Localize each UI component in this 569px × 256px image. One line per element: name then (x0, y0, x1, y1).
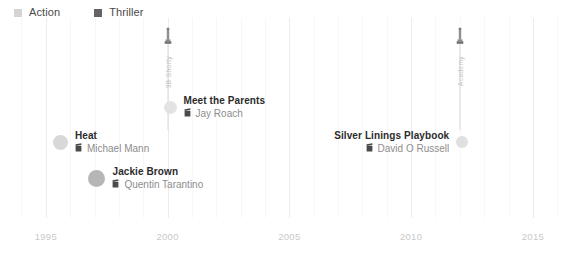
gridline-minor (484, 18, 485, 218)
film-director-row: Jay Roach (184, 108, 243, 120)
film-label-group: Meet the ParentsJay Roach (184, 95, 266, 119)
gridline-major (411, 18, 412, 218)
gridline-minor (21, 18, 22, 218)
film-dot[interactable] (164, 101, 177, 114)
x-axis-tick-label: 1995 (35, 231, 57, 242)
x-axis-tick-label: 2005 (278, 231, 300, 242)
film-data-point[interactable]: Jackie BrownQuentin Tarantino (88, 166, 203, 190)
plot-area: 3B ShortyAcademy HeatMichael MannJackie … (0, 0, 569, 256)
gridline-minor (557, 18, 558, 218)
award-statuette-icon (163, 26, 172, 48)
gridline-minor (70, 18, 71, 218)
film-director-name: Quentin Tarantino (124, 179, 203, 191)
gridline-major (533, 18, 534, 218)
film-data-point[interactable]: Silver Linings PlaybookDavid O Russell (0, 130, 468, 154)
film-data-point[interactable]: Meet the ParentsJay Roach (164, 95, 266, 119)
film-title: Jackie Brown (112, 166, 178, 178)
director-chair-icon (112, 179, 120, 191)
film-title: Meet the Parents (184, 95, 266, 107)
film-director-name: David O Russell (378, 143, 450, 155)
film-director-row: Quentin Tarantino (112, 179, 203, 191)
director-chair-icon (184, 108, 192, 120)
gridline-major (46, 18, 47, 218)
film-director-row: David O Russell (366, 143, 450, 155)
x-axis-tick-label: 2000 (156, 231, 178, 242)
film-dot[interactable] (88, 170, 105, 187)
gridline-minor (387, 18, 388, 218)
gridline-minor (435, 18, 436, 218)
award-label: 3B Shorty (164, 56, 171, 88)
gridline-minor (338, 18, 339, 218)
x-axis-tick-label: 2015 (522, 231, 544, 242)
film-label-group: Silver Linings PlaybookDavid O Russell (334, 130, 449, 154)
director-chair-icon (366, 143, 374, 155)
film-dot[interactable] (456, 136, 468, 148)
award-marker[interactable]: Academy (447, 26, 473, 116)
film-label-group: Jackie BrownQuentin Tarantino (112, 166, 203, 190)
film-title: Silver Linings Playbook (334, 130, 449, 142)
award-label: Academy (456, 56, 463, 86)
gridline-minor (509, 18, 510, 218)
timeline-chart: ActionThriller 3B ShortyAcademy HeatMich… (0, 0, 569, 256)
gridline-minor (314, 18, 315, 218)
award-statuette-icon (455, 26, 464, 48)
gridline-minor (362, 18, 363, 218)
film-director-name: Jay Roach (196, 108, 243, 120)
gridline-minor (265, 18, 266, 218)
x-axis-tick-label: 2010 (400, 231, 422, 242)
gridline-major (289, 18, 290, 218)
